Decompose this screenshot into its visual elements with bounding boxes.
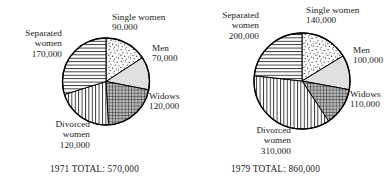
label-name-line2: women	[223, 135, 291, 145]
chart-total-caption-1971: 1971 TOTAL: 570,000	[50, 164, 139, 175]
label-divorced-women-1971: Divorced women 120,000	[22, 119, 90, 150]
label-name: Single women	[306, 5, 359, 15]
pie-chart-1979: Single women 140,000 Men 100,000 Widows …	[195, 0, 391, 185]
label-widows-1979: Widows 110,000	[350, 89, 381, 110]
pie-chart-1971: Single women 90,000 Men 70,000 Widows 12…	[0, 0, 196, 185]
label-widows-1971: Widows 120,000	[149, 91, 180, 112]
pie-slice	[254, 33, 302, 81]
label-value: 170,000	[2, 49, 62, 59]
label-value: 100,000	[353, 55, 383, 65]
label-name-line1: Divorced	[223, 125, 291, 135]
label-name-line1: Separated	[2, 28, 62, 38]
label-name: Men	[353, 45, 383, 55]
label-single-women-1979: Single women 140,000	[306, 5, 359, 26]
label-name-line1: Divorced	[22, 119, 90, 129]
label-name-line2: women	[22, 129, 90, 139]
pie-1979-slices	[254, 33, 350, 129]
label-value: 200,000	[197, 31, 259, 41]
label-name-line1: Separated	[197, 10, 259, 20]
label-name: Widows	[149, 91, 180, 101]
label-value: 120,000	[149, 101, 180, 111]
label-name-line2: women	[197, 20, 259, 30]
label-name-line2: women	[2, 38, 62, 48]
label-name: Men	[152, 43, 178, 53]
chart-total-caption-1979: 1979 TOTAL: 860,000	[231, 164, 320, 175]
label-separated-women-1979: Separated women 200,000	[197, 10, 259, 41]
label-name: Single women	[112, 12, 165, 22]
label-value: 120,000	[22, 140, 90, 150]
label-value: 70,000	[152, 53, 178, 63]
label-name: Widows	[350, 89, 381, 99]
label-single-women-1971: Single women 90,000	[112, 12, 165, 33]
label-men-1971: Men 70,000	[152, 43, 178, 64]
label-men-1979: Men 100,000	[353, 45, 383, 66]
pie-1971-slices	[62, 38, 149, 125]
label-separated-women-1971: Separated women 170,000	[2, 28, 62, 59]
label-value: 140,000	[306, 15, 359, 25]
label-value: 310,000	[223, 146, 291, 156]
label-value: 110,000	[350, 99, 381, 109]
label-value: 90,000	[112, 22, 165, 32]
label-divorced-women-1979: Divorced women 310,000	[223, 125, 291, 156]
